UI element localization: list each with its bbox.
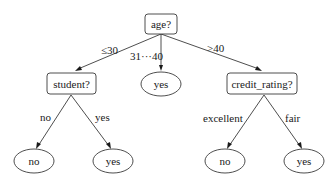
node-student-yes-label: yes [106,155,121,167]
edge-label-student-yes: yes [95,111,110,123]
node-mid-yes[interactable]: yes [141,72,181,96]
edge-label-fair: fair [285,112,301,124]
arrow-head-icon [159,65,163,71]
edge-student-no: no [36,95,71,149]
node-student-no-label: no [29,155,41,167]
edge-label-le30: ≤30 [101,44,119,56]
edge-age-credit: >40 [161,34,262,71]
node-credit-yes-label: yes [297,155,312,167]
edge-label-student-no: no [40,111,52,123]
node-credit-rating-label: credit_rating? [231,78,292,90]
node-age-label: age? [151,18,171,30]
edge-label-gt40: >40 [207,42,225,54]
edge-label-31-40: 31···40 [130,50,163,62]
node-age[interactable]: age? [145,14,177,34]
node-credit-no[interactable]: no [205,149,245,173]
node-student[interactable]: student? [47,73,96,94]
edge-credit-yes: fair [264,95,302,149]
decision-tree-diagram: ≤30 31···40 >40 no yes excellent [0,0,333,187]
edge-credit-no: excellent [203,95,264,149]
edge-label-excellent: excellent [203,112,243,124]
edge-student-yes: yes [71,95,111,149]
node-credit-rating[interactable]: credit_rating? [227,73,297,94]
node-credit-no-label: no [220,155,232,167]
node-student-label: student? [53,78,90,90]
arrow-head-icon [255,66,262,71]
arrow-head-icon [75,66,82,71]
nodes: age? student? yes credit_rating? no yes … [14,14,324,173]
node-student-yes[interactable]: yes [93,149,133,173]
node-mid-yes-label: yes [154,78,169,90]
node-student-no[interactable]: no [14,149,54,173]
node-credit-yes[interactable]: yes [284,149,324,173]
